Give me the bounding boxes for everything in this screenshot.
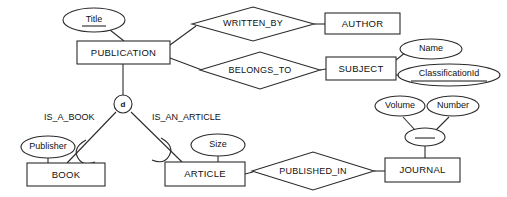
attribute-publisher[interactable]: Publisher <box>21 136 75 158</box>
connector-publication-belongs-to <box>170 58 202 70</box>
disjoint-circle-label: d <box>121 100 126 109</box>
relationship-published-in-label: PUBLISHED_IN <box>279 166 346 176</box>
entity-publication[interactable]: PUBLICATION <box>77 41 170 64</box>
attribute-title-label: Title <box>86 14 103 24</box>
entity-author-label: AUTHOR <box>342 18 384 29</box>
attribute-journal-key-ellipse[interactable] <box>405 128 445 146</box>
entity-journal[interactable]: JOURNAL <box>385 158 460 182</box>
attribute-number-label: Number <box>437 100 469 110</box>
edge-label-is-an-article: IS_AN_ARTICLE <box>152 112 221 122</box>
edge-label-is-a-book: IS_A_BOOK <box>44 112 95 122</box>
er-diagram-svg: PUBLICATION AUTHOR SUBJECT BOOK ARTICLE … <box>0 0 507 197</box>
relationship-published-in[interactable]: PUBLISHED_IN <box>252 152 374 190</box>
relationship-belongs-to[interactable]: BELONGS_TO <box>200 52 320 89</box>
relationship-written-by[interactable]: WRITTEN_BY <box>192 7 314 41</box>
attribute-name-label: Name <box>419 43 443 53</box>
attribute-publisher-label: Publisher <box>29 141 67 151</box>
entity-subject[interactable]: SUBJECT <box>326 57 396 80</box>
er-diagram-canvas: PUBLICATION AUTHOR SUBJECT BOOK ARTICLE … <box>0 0 507 197</box>
attribute-volume-label: Volume <box>385 100 415 110</box>
attribute-size-label: Size <box>209 139 227 149</box>
entity-article[interactable]: ARTICLE <box>165 162 245 186</box>
connector-key-number <box>436 117 449 130</box>
attribute-volume[interactable]: Volume <box>375 96 425 116</box>
attribute-classificationid-label: ClassificationId <box>419 68 480 78</box>
connector-publication-written-by <box>170 26 196 45</box>
entity-subject-label: SUBJECT <box>338 63 383 74</box>
entity-book[interactable]: BOOK <box>27 163 105 186</box>
connector-title-publication <box>110 30 124 41</box>
subset-arc-group <box>76 138 171 164</box>
entity-journal-label: JOURNAL <box>399 164 445 175</box>
attribute-classificationid[interactable]: ClassificationId <box>398 64 500 86</box>
connector-article-published-in <box>245 172 253 174</box>
relationship-belongs-to-label: BELONGS_TO <box>229 65 292 75</box>
entity-book-label: BOOK <box>52 169 81 180</box>
attribute-number[interactable]: Number <box>427 96 479 116</box>
specialization-disjoint[interactable]: d <box>114 95 132 113</box>
entity-author[interactable]: AUTHOR <box>325 13 400 34</box>
entity-publication-label: PUBLICATION <box>91 47 156 58</box>
entity-article-label: ARTICLE <box>184 168 226 179</box>
attribute-name[interactable]: Name <box>400 39 462 59</box>
attribute-journal-composite-key[interactable] <box>405 128 445 146</box>
attribute-title[interactable]: Title <box>63 8 125 32</box>
relationship-written-by-label: WRITTEN_BY <box>223 18 283 28</box>
connector-key-volume <box>403 117 415 130</box>
attribute-size[interactable]: Size <box>191 134 245 156</box>
